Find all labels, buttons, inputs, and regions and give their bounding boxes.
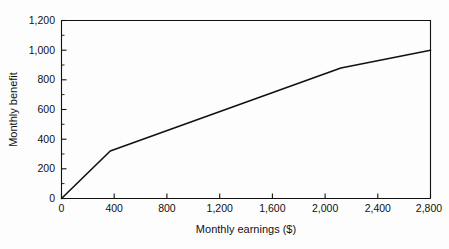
y-tick-label: 200: [37, 162, 55, 174]
y-tick-label: 0: [49, 192, 55, 204]
x-tick-label: 1,600: [259, 202, 285, 214]
x-tick-label: 2,800: [416, 202, 442, 214]
x-axis-title: Monthly earnings ($): [196, 223, 296, 235]
chart-figure: 1,200 1,000 800 600 400 200 0 0 400 800 …: [0, 0, 449, 249]
x-tick-label: 400: [105, 202, 123, 214]
y-tick-label: 800: [37, 73, 55, 85]
line-chart-svg: 1,200 1,000 800 600 400 200 0 0 400 800 …: [0, 0, 449, 249]
x-tick-label: 2,400: [365, 202, 391, 214]
y-tick-label: 400: [37, 133, 55, 145]
y-tick-label: 600: [37, 103, 55, 115]
x-tick-label: 1,200: [207, 202, 233, 214]
y-tick-label: 1,000: [29, 44, 55, 56]
y-axis-title: Monthly benefit: [7, 72, 19, 147]
x-tick-label: 0: [59, 202, 65, 214]
y-tick-label: 1,200: [29, 14, 55, 26]
x-tick-label: 800: [158, 202, 176, 214]
x-tick-label: 2,000: [312, 202, 338, 214]
